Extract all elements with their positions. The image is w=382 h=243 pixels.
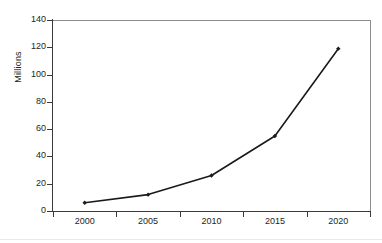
x-axis-tick-label: 2010: [180, 216, 243, 230]
line-chart: Millions 020406080100120140 200020052010…: [0, 0, 382, 243]
data-point-marker: [83, 201, 87, 205]
series-markers: [83, 46, 341, 205]
series-line: [85, 49, 339, 203]
data-series-layer: [0, 0, 382, 243]
x-axis-tick-label: 2005: [116, 216, 179, 230]
x-axis-tick-labels: 20002005201020152020: [53, 216, 370, 230]
x-axis-tick-label: 2015: [243, 216, 306, 230]
scan-edge: [0, 239, 382, 240]
x-axis-tick-label: 2020: [307, 216, 370, 230]
x-axis-tick-label: 2000: [53, 216, 116, 230]
data-point-marker: [146, 192, 150, 196]
